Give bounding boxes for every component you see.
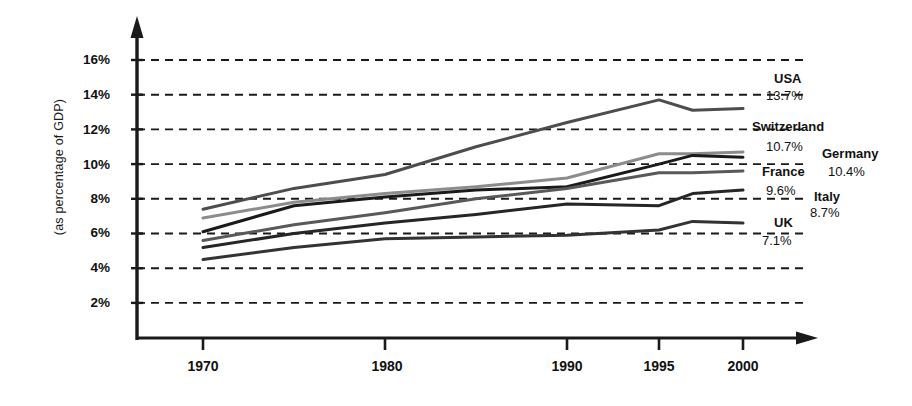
axis-lines [131,16,819,345]
x-tick-marks [203,338,743,350]
series-lines [203,100,743,260]
plot-area [0,0,912,406]
line-chart: (as percentage of GDP) 16% 14% 12% 10% 8… [0,0,912,406]
series-line-germany [203,155,743,231]
gridlines [137,60,803,303]
